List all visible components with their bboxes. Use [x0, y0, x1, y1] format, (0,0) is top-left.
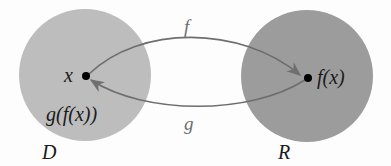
- point-x-dot: [82, 72, 90, 80]
- mapping-diagram: x f(x) g(f(x)) f g D R: [0, 0, 391, 166]
- arrow-f-label: f: [184, 16, 192, 37]
- diagram-canvas: x f(x) g(f(x)) f g D R: [0, 0, 391, 166]
- point-fx-dot: [304, 74, 312, 82]
- range-set-label: R: [277, 141, 290, 163]
- point-x-label: x: [63, 64, 73, 86]
- arrow-g-label: g: [184, 113, 194, 134]
- composite-label: g(f(x)): [46, 103, 97, 126]
- domain-set-label: D: [41, 141, 57, 163]
- point-fx-label: f(x): [317, 66, 345, 89]
